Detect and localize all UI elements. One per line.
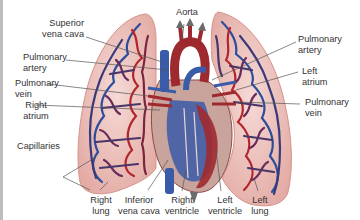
label-line: vena cava xyxy=(118,206,160,217)
label-line: ventricle xyxy=(160,206,204,217)
label-line: ventricle xyxy=(203,206,247,217)
label-line: vein xyxy=(15,89,59,100)
heart-lungs-diagram: Superior vena cava Aorta Pulmonary arter… xyxy=(0,0,360,220)
label-right-ventricle: Right ventricle xyxy=(160,195,204,216)
label-line: Pulmonary xyxy=(305,97,349,108)
label-line: Left xyxy=(248,195,272,206)
label-inferior-vena-cava: Inferior vena cava xyxy=(118,195,160,216)
label-line: vein xyxy=(305,108,349,119)
label-line: artery xyxy=(298,45,342,56)
label-left-ventricle: Left ventricle xyxy=(203,195,247,216)
label-left-atrium: Left atrium xyxy=(302,66,328,87)
label-line: Left xyxy=(203,195,247,206)
label-superior-vena-cava: Superior vena cava xyxy=(40,18,84,39)
label-pulmonary-vein-right-side: Pulmonary vein xyxy=(15,78,59,99)
label-line: lung xyxy=(248,206,272,217)
label-pulmonary-vein-left-side: Pulmonary vein xyxy=(305,97,349,118)
label-line: Right xyxy=(160,195,204,206)
label-line: Inferior xyxy=(118,195,160,206)
label-line: Right xyxy=(86,195,116,206)
label-line: Superior xyxy=(40,18,84,29)
label-line: Left xyxy=(302,66,328,77)
label-pulmonary-artery-right-side: Pulmonary artery xyxy=(23,52,67,73)
label-line: lung xyxy=(86,206,116,217)
label-left-lung: Left lung xyxy=(248,195,272,216)
label-right-atrium: Right atrium xyxy=(18,100,54,121)
label-line: Pulmonary xyxy=(298,34,342,45)
label-line: Pulmonary xyxy=(23,52,67,63)
label-aorta: Aorta xyxy=(176,7,198,18)
label-line: Right xyxy=(18,100,54,111)
label-line: vena cava xyxy=(40,29,84,40)
label-line: artery xyxy=(23,63,67,74)
label-line: atrium xyxy=(302,77,328,88)
label-line: Pulmonary xyxy=(15,78,59,89)
label-capillaries: Capillaries xyxy=(17,141,60,152)
label-line: atrium xyxy=(18,111,54,122)
label-pulmonary-artery-left-side: Pulmonary artery xyxy=(298,34,342,55)
label-right-lung: Right lung xyxy=(86,195,116,216)
